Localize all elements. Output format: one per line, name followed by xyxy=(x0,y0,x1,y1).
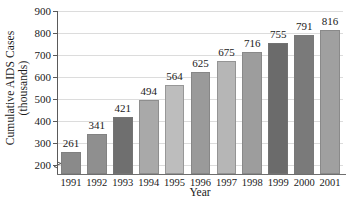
bar-value-label: 494 xyxy=(140,86,157,97)
bar-value-label: 261 xyxy=(63,138,80,149)
bar[interactable] xyxy=(139,100,159,174)
plot-area: 200300400500600700800900 261199134119924… xyxy=(57,11,343,174)
bar-value-label: 716 xyxy=(244,38,261,49)
y-axis-title: Cumulative AIDS Cases (thousands) xyxy=(0,0,34,175)
y-tick-label: 600 xyxy=(35,72,52,83)
y-tick-mark xyxy=(53,11,57,12)
y-tick-label: 300 xyxy=(35,138,52,149)
y-tick-mark xyxy=(53,55,57,56)
bar[interactable] xyxy=(268,43,288,174)
bar[interactable] xyxy=(242,52,262,174)
bar[interactable] xyxy=(165,85,185,174)
y-tick-label: 500 xyxy=(35,94,52,105)
y-tick-mark xyxy=(53,99,57,100)
bar-slot: 8162001 xyxy=(317,11,343,174)
bar[interactable] xyxy=(320,30,340,174)
bar-slot: 5641995 xyxy=(162,11,188,174)
bar-slot: 4941994 xyxy=(136,11,162,174)
y-axis-title-line1: Cumulative AIDS Cases xyxy=(4,30,16,145)
bar-slot: 4211993 xyxy=(110,11,136,174)
x-axis-title: Year xyxy=(57,186,343,198)
y-tick-mark xyxy=(53,121,57,122)
bar-slot: 3411992 xyxy=(84,11,110,174)
bar[interactable] xyxy=(191,72,211,174)
bar-value-label: 755 xyxy=(270,29,287,40)
bar-value-label: 816 xyxy=(322,16,339,27)
y-tick-label: 400 xyxy=(35,116,52,127)
y-tick-label: 800 xyxy=(35,28,52,39)
bar-value-label: 564 xyxy=(166,71,183,82)
bar-slot: 6751997 xyxy=(213,11,239,174)
bar-slot: 2611991 xyxy=(58,11,84,174)
bar[interactable] xyxy=(113,117,133,174)
bar-value-label: 421 xyxy=(115,103,132,114)
y-tick-label: 700 xyxy=(35,50,52,61)
bar-value-label: 341 xyxy=(89,120,106,131)
bars-group: 2611991341199242119934941994564199562519… xyxy=(58,11,343,174)
bar[interactable] xyxy=(87,134,107,174)
y-tick-label: 900 xyxy=(35,6,52,17)
y-tick-mark xyxy=(53,143,57,144)
x-axis-line xyxy=(57,174,346,175)
y-tick-label: 200 xyxy=(35,160,52,171)
bar[interactable] xyxy=(61,152,81,174)
bar-value-label: 625 xyxy=(192,58,209,69)
bar[interactable] xyxy=(217,61,237,174)
bar-chart-figure: Cumulative AIDS Cases (thousands) 200300… xyxy=(0,0,350,204)
y-tick-mark xyxy=(53,77,57,78)
bar-value-label: 675 xyxy=(218,47,235,58)
bar-slot: 7161998 xyxy=(239,11,265,174)
bar[interactable] xyxy=(294,35,314,174)
y-tick-mark xyxy=(53,33,57,34)
bar-slot: 7551999 xyxy=(265,11,291,174)
y-axis-title-line2: (thousands) xyxy=(17,30,30,145)
bar-slot: 7912000 xyxy=(291,11,317,174)
bar-value-label: 791 xyxy=(296,21,313,32)
bar-slot: 6251996 xyxy=(188,11,214,174)
